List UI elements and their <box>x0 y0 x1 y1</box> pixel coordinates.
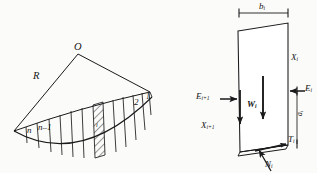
slice-label-n-minus-1: n–1 <box>38 123 52 132</box>
width-dimension-label: bi <box>259 2 265 12</box>
figure-vector-layer <box>0 0 317 173</box>
radius-line-right <box>78 54 150 92</box>
E-i-subscript: i <box>311 87 313 93</box>
height-dimension-label: ai <box>296 111 305 116</box>
W-i-symbol: W <box>247 99 255 109</box>
force-label-X-i: Xi <box>291 53 298 63</box>
W-i-subscript: i <box>255 103 257 109</box>
force-label-N-i: Ni <box>265 160 273 170</box>
height-symbol: a <box>295 112 304 116</box>
slice-label-i: i <box>96 122 98 128</box>
X-i1-subscript: i+1 <box>207 124 215 130</box>
slice-divider <box>60 115 62 155</box>
slice-divider <box>82 108 84 158</box>
T-i-subscript: i <box>293 138 295 144</box>
force-label-T-i: Ti <box>288 135 295 145</box>
force-label-E-i: Ei <box>305 84 312 94</box>
slice-divider <box>123 97 126 147</box>
wedge-right-edge <box>150 92 152 97</box>
width-subscript: i <box>264 5 266 11</box>
slice-label-minus-one: –1 <box>43 122 52 132</box>
radius-line-left <box>14 54 78 131</box>
slice-label-1: 1 <box>146 93 150 101</box>
figure-container: O R n n–1 i 2 1 bi Xi Ei ai Ei+1 Xi+1 Wi… <box>0 0 317 173</box>
force-label-E-i-plus-1: Ei+1 <box>196 92 210 102</box>
slice-label-n: n <box>27 126 32 135</box>
right-diagram-group <box>220 13 305 171</box>
force-label-X-i-plus-1: Xi+1 <box>201 121 215 131</box>
E-i1-subscript: i+1 <box>202 95 210 101</box>
radius-label: R <box>33 71 39 82</box>
X-i-subscript: i <box>297 56 299 62</box>
slice-divider <box>71 111 73 157</box>
slice-i-hatched <box>93 102 105 158</box>
slice-label-2: 2 <box>134 98 139 107</box>
height-subscript: i <box>299 111 304 112</box>
force-label-W-i: Wi <box>247 100 257 110</box>
center-point-label: O <box>74 42 82 53</box>
slice-divider-2 <box>142 93 145 130</box>
N-i-subscript: i <box>271 163 273 169</box>
